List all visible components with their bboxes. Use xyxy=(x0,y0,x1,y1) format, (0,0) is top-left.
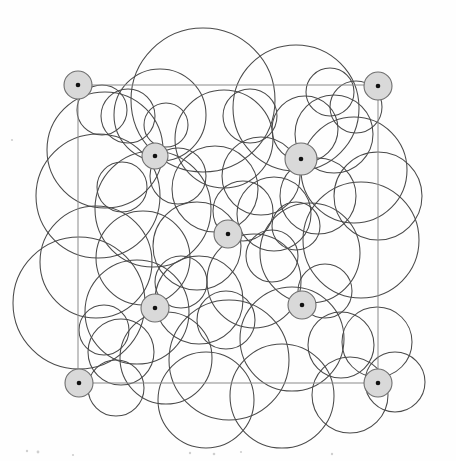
scan-speck xyxy=(189,452,191,454)
scan-speck xyxy=(72,454,74,456)
scan-speck xyxy=(11,139,13,141)
corner-bottom-right-dot xyxy=(376,381,381,386)
interior-center-dot xyxy=(226,232,231,237)
scan-speck xyxy=(213,453,216,456)
scan-speck xyxy=(26,450,28,452)
scan-speck xyxy=(240,451,242,453)
corner-top-left-dot xyxy=(76,83,81,88)
interior-lower-right-dot xyxy=(300,303,305,308)
corner-bottom-left-dot xyxy=(77,381,82,386)
interior-upper-right-dot xyxy=(299,157,304,162)
figure-root xyxy=(0,0,456,461)
corner-top-right-dot xyxy=(376,84,381,89)
interior-upper-left-dot xyxy=(153,154,158,159)
scan-speck xyxy=(331,453,333,455)
interior-lower-left-dot xyxy=(153,306,158,311)
circle-arrangement-diagram xyxy=(0,0,456,461)
scan-speck xyxy=(37,451,40,454)
